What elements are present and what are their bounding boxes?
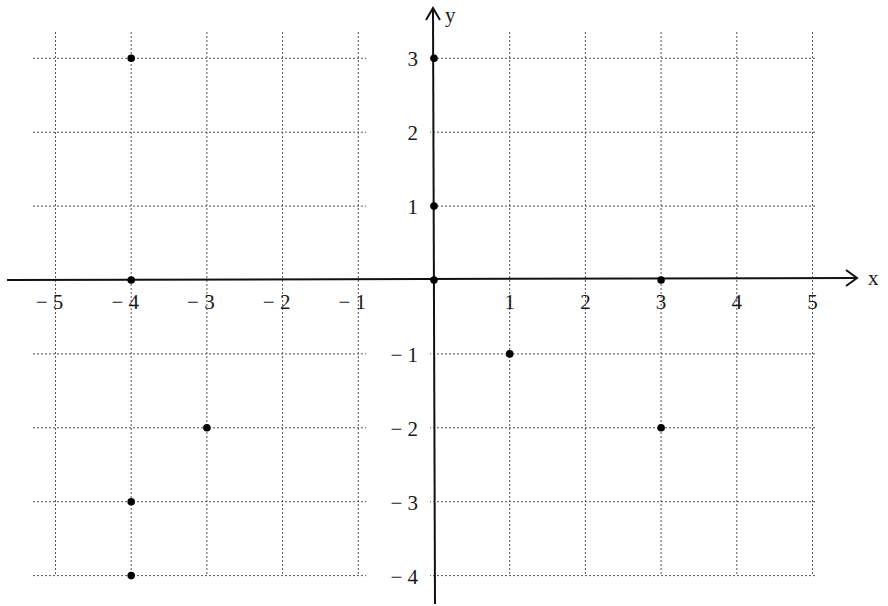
x-tick-label: − 5: [36, 290, 64, 314]
x-tick-label: 3: [656, 290, 667, 314]
data-point: [430, 276, 438, 284]
data-point: [657, 276, 665, 284]
x-tick-label: − 3: [187, 290, 215, 314]
y-tick-label: − 1: [390, 343, 418, 367]
data-point: [127, 572, 135, 580]
y-axis: [433, 9, 435, 604]
x-tick-label: − 4: [111, 290, 139, 314]
x-tick-label: − 2: [263, 290, 291, 314]
data-point: [127, 498, 135, 506]
x-tick-label: 4: [732, 290, 743, 314]
y-tick-label: 3: [408, 47, 419, 71]
data-point: [657, 424, 665, 432]
y-tick-label: − 4: [390, 565, 418, 589]
y-tick-label: 2: [408, 121, 419, 145]
data-point: [430, 202, 438, 210]
y-tick-label: 1: [408, 195, 419, 219]
data-point: [203, 424, 211, 432]
x-tick-label: 5: [807, 290, 818, 314]
y-tick-label: − 3: [390, 491, 418, 515]
tick-labels: 321− 1− 2− 3− 4− 5− 4− 3− 2− 112345: [36, 45, 818, 588]
x-tick-label: 1: [504, 290, 515, 314]
y-tick-label: − 2: [390, 417, 418, 441]
x-tick-label: 2: [580, 290, 591, 314]
data-point: [127, 276, 135, 284]
y-axis-label: y: [445, 3, 456, 27]
x-tick-label: − 1: [339, 290, 367, 314]
coordinate-plane: x y 321− 1− 2− 3− 4− 5− 4− 3− 2− 112345: [0, 0, 888, 606]
data-point: [127, 55, 135, 63]
data-point: [506, 350, 514, 358]
data-point: [430, 55, 438, 63]
x-axis-label: x: [868, 266, 879, 290]
